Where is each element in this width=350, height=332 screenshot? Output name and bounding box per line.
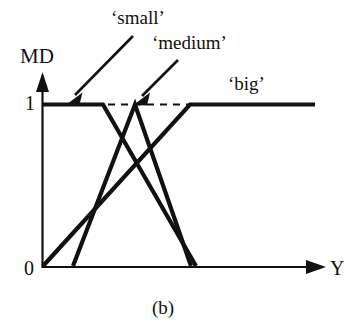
x-axis-arrowhead-icon — [306, 260, 326, 274]
membership-curve-medium — [73, 105, 191, 267]
figure-caption: (b) — [152, 298, 174, 317]
leader-line-small — [75, 36, 133, 95]
y-tick-label-zero: 0 — [24, 258, 34, 278]
y-tick-label-one: 1 — [25, 93, 35, 113]
x-axis-label: Y — [330, 258, 344, 278]
annotation-label-medium: ‘medium’ — [152, 33, 227, 52]
annotation-label-big: ‘big’ — [228, 74, 265, 93]
leader-line-medium — [142, 60, 178, 96]
annotation-label-small: ‘small’ — [111, 8, 165, 27]
y-axis-label: MD — [20, 46, 54, 67]
y-axis-arrowhead-icon — [36, 72, 49, 92]
fuzzy-membership-figure: MD Y 1 0 ‘small’ ‘medium’ ‘big’ (b) — [0, 0, 350, 332]
